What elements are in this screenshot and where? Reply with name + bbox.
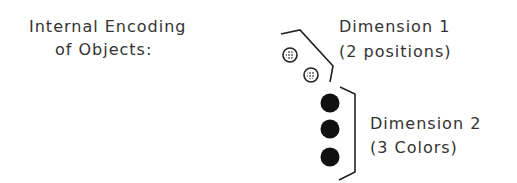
position-marker-1 — [283, 48, 297, 62]
dimension-2-bracket — [339, 87, 355, 180]
color-marker-3 — [321, 148, 340, 167]
encoding-diagram — [0, 0, 517, 183]
color-marker-1 — [321, 94, 340, 113]
position-marker-2 — [304, 68, 318, 82]
color-marker-2 — [321, 120, 340, 139]
